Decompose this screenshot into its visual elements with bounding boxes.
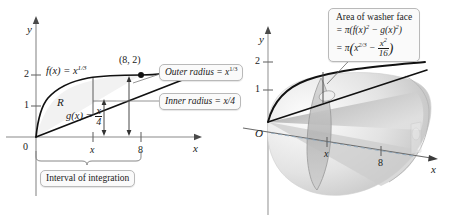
- callout-line-3-exponent: 2/3: [358, 41, 366, 48]
- callout-inner-radius: Inner radius = x/4: [159, 93, 241, 110]
- curve-label-f: f(x) = x1/3: [46, 66, 87, 77]
- g-fraction: x4: [95, 106, 102, 127]
- washer-fraction-denominator: 16: [378, 49, 389, 58]
- intersection-point-marker: [138, 72, 144, 78]
- left-panel-region-plot: y x 0 1 2 x 8 f(x) = x1/3 g(x) = x4 R (8…: [0, 0, 235, 224]
- y-axis-label: y: [259, 34, 264, 45]
- interval-brace: [36, 151, 141, 165]
- curve-label-g: g(x) = x4: [66, 106, 102, 127]
- point-label-8-2: (8, 2): [119, 55, 141, 65]
- x-tick-label-x: x: [90, 145, 94, 155]
- g-fraction-denominator: 4: [95, 117, 102, 127]
- callout-line-1: Area of washer face: [336, 12, 412, 23]
- x-axis-label: x: [193, 143, 198, 154]
- curve-label-f-text: f(x) = x: [46, 65, 78, 76]
- x-axis-arrowhead: [428, 155, 438, 161]
- callout-outer-radius-text: Outer radius = x: [165, 67, 229, 77]
- y-tick-label-2: 2: [255, 56, 260, 66]
- callout-line-3-minus: −: [367, 43, 378, 53]
- y-tick-label-1: 1: [24, 100, 29, 110]
- washer-fraction-numerator-exponent: 2: [384, 37, 387, 43]
- callout-line-2-pre: = π(f(x): [336, 25, 366, 35]
- callout-line-2-post: ): [399, 25, 402, 35]
- x-axis-label: x: [431, 164, 436, 175]
- callout-line-2-mid: − g(x): [369, 25, 395, 35]
- callout-line-3: = π(x2/3 − x216): [336, 39, 412, 58]
- left-panel-graphics: [0, 0, 235, 224]
- callout-outer-radius: Outer radius = x1/3: [159, 64, 243, 81]
- y-axis-arrowhead: [33, 16, 39, 24]
- y-axis-arrowhead: [265, 26, 271, 34]
- curve-label-g-text: g(x) =: [66, 110, 95, 121]
- callout-line-2: = π(f(x)2 − g(x)2): [336, 25, 412, 36]
- callout-area-of-washer-face: Area of washer face = π(f(x)2 − g(x)2) =…: [328, 8, 420, 62]
- y-axis-label: y: [27, 24, 32, 35]
- right-panel-solid-of-revolution: y x O 1 2 x 8 Area of washer face = π(f(…: [235, 0, 470, 224]
- y-tick-label-2: 2: [24, 69, 29, 79]
- origin-label: O: [255, 128, 263, 139]
- curve-label-f-exponent: 1/3: [78, 64, 87, 72]
- outer-radius-arrowhead-bottom: [127, 130, 132, 136]
- inner-radius-arrowhead-bottom: [102, 130, 107, 136]
- callout-line-3-paren-close: ): [389, 40, 394, 55]
- x-tick-label-8: 8: [138, 145, 143, 155]
- x-axis-arrowhead: [194, 134, 202, 140]
- x-tick-label-x: x: [324, 149, 328, 159]
- washer-method-figure: y x 0 1 2 x 8 f(x) = x1/3 g(x) = x4 R (8…: [0, 0, 470, 224]
- washer-fraction: x216: [378, 39, 389, 58]
- y-tick-label-1: 1: [255, 84, 260, 94]
- origin-label: 0: [23, 142, 28, 152]
- callout-line-3-pre: = π: [336, 43, 350, 53]
- washer-icon-small: [411, 122, 421, 154]
- inner-radius-arrowhead-top: [102, 99, 107, 105]
- callout-interval-of-integration: Interval of integration: [40, 170, 135, 187]
- x-tick-label-8: 8: [378, 158, 383, 168]
- region-label-r: R: [57, 97, 64, 108]
